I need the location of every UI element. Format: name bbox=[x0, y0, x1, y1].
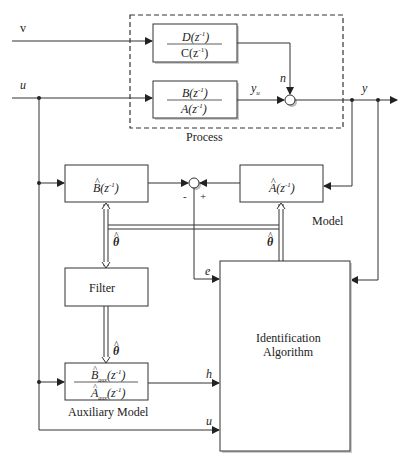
svg-text:yu: yu bbox=[250, 81, 260, 97]
svg-text:y: y bbox=[361, 81, 368, 95]
svg-text:C(z-1): C(z-1) bbox=[181, 46, 208, 60]
svg-text:D(z-1): D(z-1) bbox=[181, 30, 209, 44]
model-label: Model bbox=[312, 214, 344, 228]
svg-text:n: n bbox=[280, 71, 286, 85]
auxiliary-model-label: Auxiliary Model bbox=[68, 405, 149, 419]
sum-junction-model bbox=[189, 178, 199, 188]
svg-text:θ: θ bbox=[113, 344, 120, 358]
n-line bbox=[237, 43, 290, 94]
svg-text:-: - bbox=[183, 190, 187, 202]
svg-text:B(z-1): B(z-1) bbox=[93, 181, 119, 195]
sum-junction-process bbox=[285, 95, 295, 105]
block-diagram: Process v D(z-1) C(z-1) n u B(z-1) A(z-1… bbox=[0, 0, 407, 460]
svg-text:e: e bbox=[205, 264, 211, 278]
svg-text:Filter: Filter bbox=[89, 281, 115, 295]
svg-text:+: + bbox=[200, 190, 206, 202]
process-label: Process bbox=[186, 130, 223, 144]
svg-text:A(z-1): A(z-1) bbox=[180, 102, 207, 116]
svg-text:A(z-1): A(z-1) bbox=[268, 181, 295, 195]
svg-text:Algorithm: Algorithm bbox=[263, 345, 314, 359]
svg-text:h: h bbox=[206, 367, 212, 381]
svg-text:u: u bbox=[206, 414, 212, 428]
signal-u-label: u bbox=[20, 78, 26, 92]
svg-text:B(z-1): B(z-1) bbox=[182, 86, 208, 100]
svg-text:θ: θ bbox=[267, 235, 274, 249]
svg-text:Identification: Identification bbox=[256, 331, 321, 345]
signal-v-label: v bbox=[20, 21, 26, 35]
svg-text:θ: θ bbox=[113, 235, 120, 249]
